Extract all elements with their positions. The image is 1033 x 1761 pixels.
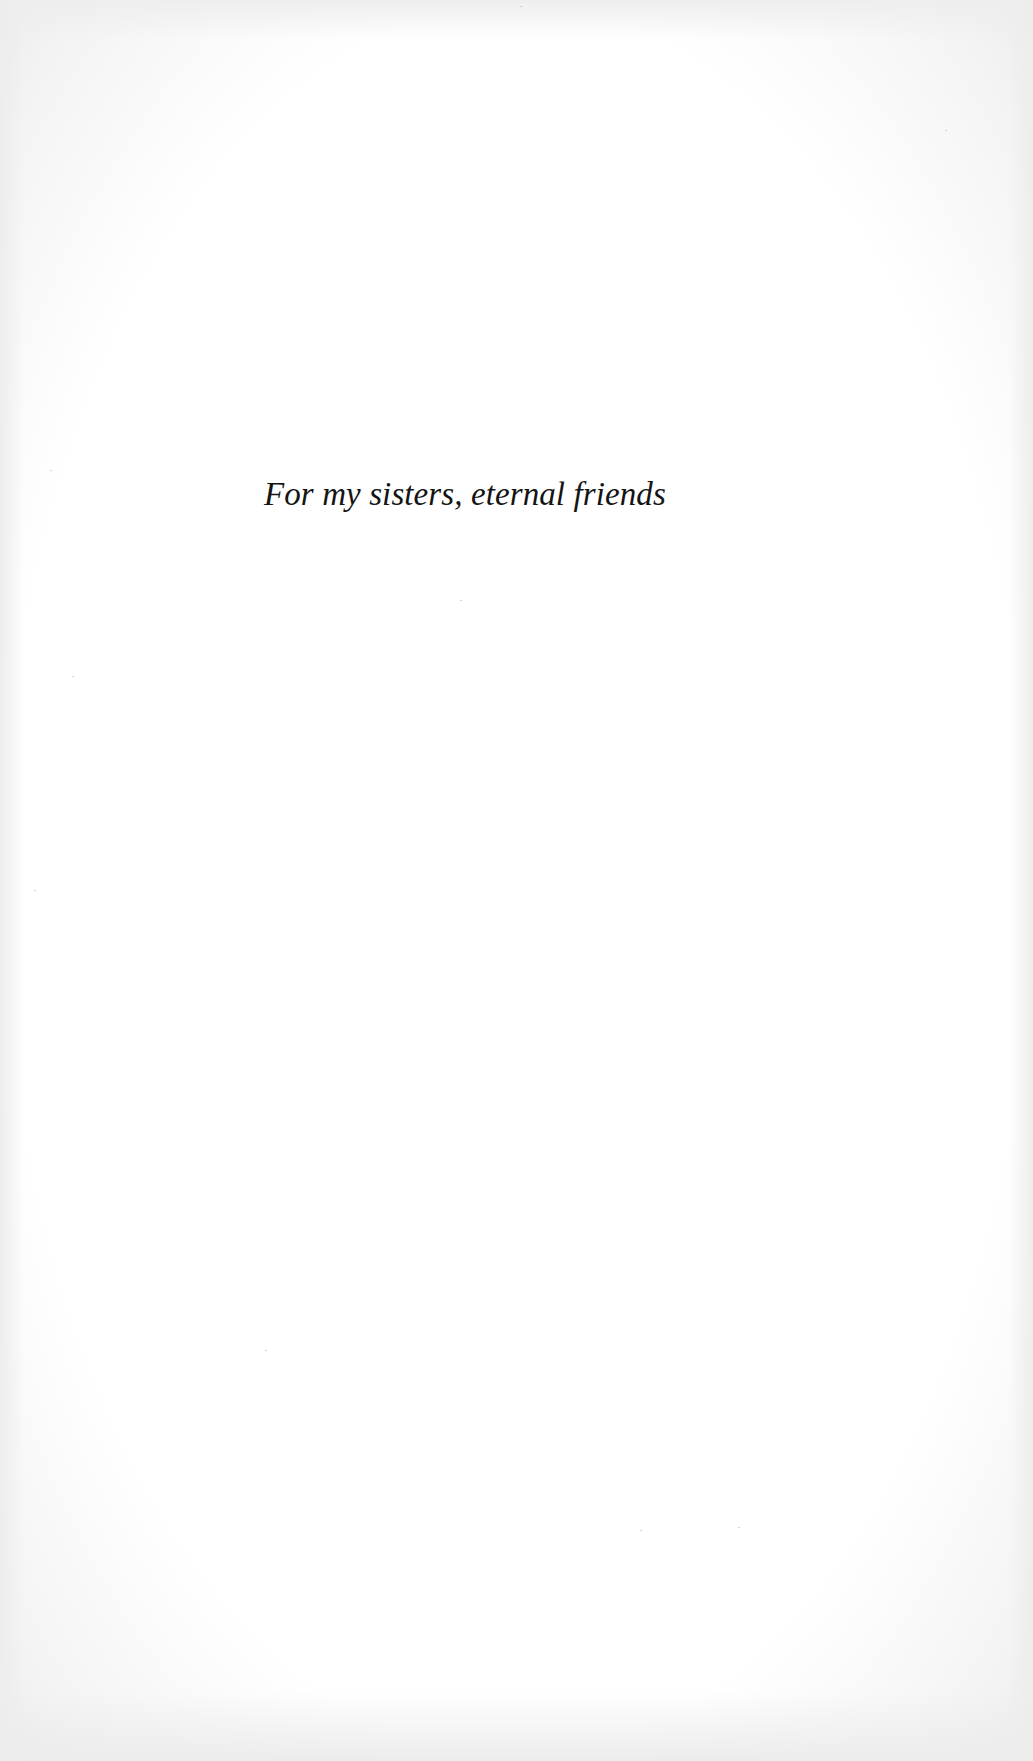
scan-speck <box>34 890 36 891</box>
scan-speck <box>72 676 74 677</box>
scan-speck <box>265 1350 267 1351</box>
scan-speck <box>460 600 462 601</box>
dedication-text: For my sisters, eternal friends <box>264 474 666 514</box>
scan-speck <box>738 1527 740 1528</box>
page-edge-shadow-left <box>0 0 24 1761</box>
scan-speck <box>640 1530 642 1531</box>
scan-speck <box>520 6 522 7</box>
scan-speck <box>50 470 52 471</box>
page-edge-shadow-top <box>0 0 1033 40</box>
scan-speck <box>945 130 947 131</box>
page-edge-shadow-bottom <box>0 1691 1033 1761</box>
page-edge-shadow-right <box>1009 0 1033 1761</box>
book-page: For my sisters, eternal friends <box>0 0 1033 1761</box>
